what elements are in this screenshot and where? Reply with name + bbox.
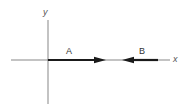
vector-a-label: A bbox=[66, 47, 72, 56]
y-axis-label: y bbox=[43, 8, 48, 17]
arrowhead-left-icon bbox=[122, 57, 134, 63]
x-axis-label: x bbox=[173, 55, 178, 64]
vector-b-label: B bbox=[139, 47, 145, 56]
vector-a bbox=[48, 57, 106, 63]
vector-b bbox=[122, 57, 158, 63]
arrowhead-right-icon bbox=[94, 57, 106, 63]
vector-diagram bbox=[0, 0, 186, 112]
